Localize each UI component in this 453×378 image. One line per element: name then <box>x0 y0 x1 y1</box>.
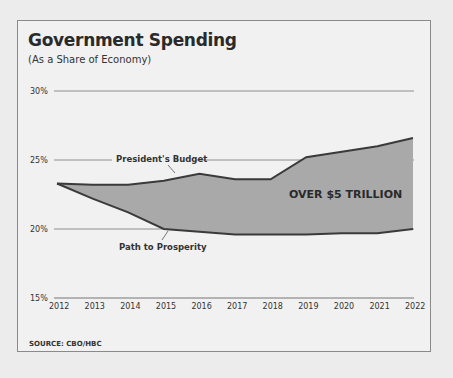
x-tick-label: 2019 <box>298 302 318 311</box>
source-note: SOURCE: CBO/HBC <box>29 340 102 348</box>
x-tick-label: 2016 <box>191 302 211 311</box>
x-tick-label: 2014 <box>120 302 140 311</box>
x-tick-label: 2022 <box>405 302 425 311</box>
x-tick-label: 2013 <box>85 302 105 311</box>
area-chart: 15%20%25%30%2012201320142015201620172018… <box>0 0 453 378</box>
over-5-trillion-label: OVER $5 TRILLION <box>289 188 402 201</box>
x-tick-label: 2012 <box>49 302 69 311</box>
y-tick-label: 15% <box>30 294 48 303</box>
x-tick-label: 2021 <box>369 302 389 311</box>
y-tick-label: 25% <box>30 156 48 165</box>
x-tick-label: 2018 <box>263 302 283 311</box>
y-tick-label: 30% <box>30 87 48 96</box>
x-tick-label: 2017 <box>227 302 247 311</box>
presidents-budget-label: President's Budget <box>116 154 207 164</box>
x-tick-label: 2020 <box>334 302 354 311</box>
area-fill <box>57 138 413 235</box>
x-tick-label: 2015 <box>156 302 176 311</box>
y-tick-label: 20% <box>30 225 48 234</box>
path-to-prosperity-label: Path to Prosperity <box>119 242 207 252</box>
